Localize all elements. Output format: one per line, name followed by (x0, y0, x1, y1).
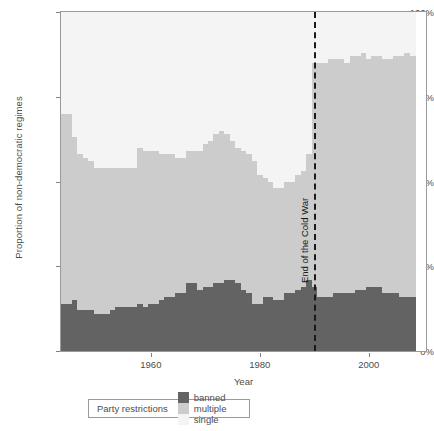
y-axis-title: Proportion of non-democratic regimes (13, 8, 24, 348)
legend: Party restrictions bannedmultiplesingle (88, 399, 250, 418)
legend-swatch-single (178, 414, 189, 425)
legend-item-multiple[interactable]: multiple (178, 403, 227, 414)
cold-war-reference-line (314, 12, 316, 351)
legend-items: bannedmultiplesingle (178, 392, 241, 425)
x-axis-tick-label: 1960 (140, 359, 161, 370)
plot-panel: End of the Cold War (60, 11, 427, 352)
area-segment-multiple (410, 55, 416, 296)
legend-title: Party restrictions (97, 403, 168, 414)
area-segment-banned (410, 296, 416, 351)
legend-item-banned[interactable]: banned (178, 392, 227, 403)
stacked-column (410, 12, 416, 351)
x-axis-tick-label: 2000 (358, 359, 379, 370)
x-axis-tick-mark (260, 353, 261, 357)
legend-item-single[interactable]: single (178, 414, 241, 425)
cold-war-annotation-label: End of the Cold War (299, 198, 310, 283)
legend-label: single (194, 414, 219, 425)
stacked-area-plot (61, 12, 426, 351)
x-axis-tick-label: 1980 (249, 359, 270, 370)
x-axis-title: Year (60, 376, 427, 387)
x-axis-tick-mark (151, 353, 152, 357)
chart-figure: Proportion of non-democratic regimes 0%2… (0, 0, 434, 431)
legend-label: banned (194, 392, 226, 403)
legend-label: multiple (194, 403, 227, 414)
legend-swatch-multiple (178, 403, 189, 414)
x-axis-tick-mark (369, 353, 370, 357)
area-segment-single (410, 11, 416, 56)
legend-swatch-banned (178, 392, 189, 403)
